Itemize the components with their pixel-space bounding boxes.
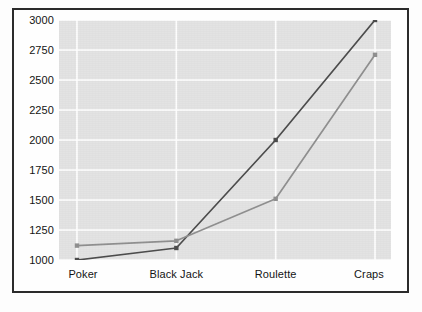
x-axis: PokerBlack JackRouletteCraps: [59, 268, 391, 286]
data-point-marker: [75, 258, 79, 260]
y-axis: 300027502500225020001750150012501000: [14, 20, 54, 260]
y-tick-label: 1250: [29, 224, 54, 236]
x-tick-label: Black Jack: [150, 268, 204, 280]
y-tick-label: 1000: [29, 254, 54, 266]
plot-area: [59, 20, 391, 260]
y-tick-label: 3000: [29, 14, 54, 26]
data-point-marker: [373, 53, 377, 57]
y-tick-label: 2000: [29, 134, 54, 146]
x-tick-label: Craps: [354, 268, 384, 280]
data-point-marker: [273, 138, 277, 142]
y-tick-label: 2250: [29, 104, 54, 116]
x-tick-label: Roulette: [255, 268, 297, 280]
y-tick-label: 1750: [29, 164, 54, 176]
y-tick-label: 1500: [29, 194, 54, 206]
chart-frame: 300027502500225020001750150012501000 Pok…: [12, 8, 409, 293]
y-tick-label: 2750: [29, 44, 54, 56]
y-tick-label: 2500: [29, 74, 54, 86]
line-chart-svg: [59, 20, 391, 260]
data-point-marker: [373, 20, 377, 22]
data-point-marker: [174, 239, 178, 243]
x-tick-label: Poker: [68, 268, 97, 280]
data-point-marker: [174, 246, 178, 250]
chart-figure: 300027502500225020001750150012501000 Pok…: [0, 0, 422, 312]
series-line-series-2: [77, 55, 375, 246]
data-point-marker: [75, 243, 79, 247]
data-point-marker: [273, 197, 277, 201]
